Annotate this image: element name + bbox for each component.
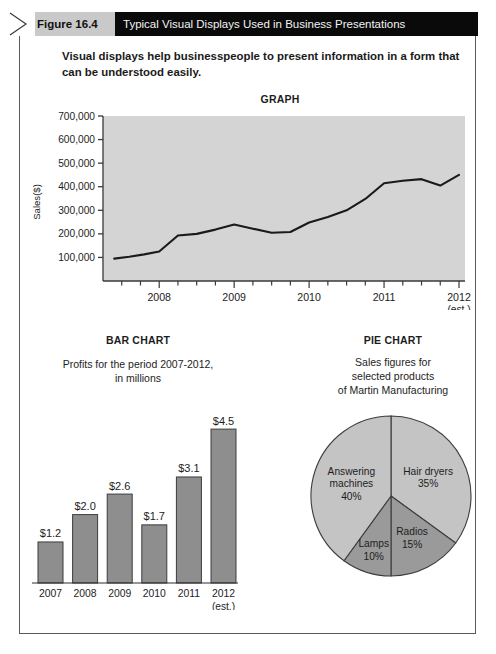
x-tick-label: 2011 <box>373 291 396 303</box>
figure-title: Typical Visual Displays Used in Business… <box>123 12 405 36</box>
line-graph: 100,000200,000300,000400,000500,000600,0… <box>26 110 471 310</box>
bar-category-label: 2012 <box>212 588 235 599</box>
bar-value-label: $2.0 <box>74 500 95 512</box>
graph-title: GRAPH <box>200 93 360 105</box>
figure-header: Figure 16.4 Typical Visual Displays Used… <box>19 12 478 36</box>
pie-chart-svg: Hair dryers35%Radios15%Lamps10%Answering… <box>305 406 481 586</box>
pie-slices <box>311 416 471 576</box>
chevron-right-icon <box>9 12 35 36</box>
bar-category-label: 2009 <box>108 588 131 599</box>
y-tick-label: 400,000 <box>58 181 95 192</box>
figure-number: Figure 16.4 <box>37 12 115 36</box>
bar-category-label: 2010 <box>143 588 166 599</box>
bar-chart-subtitle-line2: in millions <box>32 371 244 385</box>
bar-chart-svg: $1.2$2.0$2.6$1.7$3.1$4.5 200720082009201… <box>24 390 246 610</box>
x-tick-label: 2008 <box>147 291 171 303</box>
bar-value-label: $4.5 <box>213 415 234 427</box>
pie-chart-subtitle-line2: selected products <box>300 369 486 383</box>
bar-value-label: $2.6 <box>109 480 130 492</box>
pie-slice-label: Hair dryers <box>403 466 453 477</box>
y-tick-label: 600,000 <box>58 134 95 145</box>
x-tick-label: 2012 <box>447 291 471 303</box>
bar <box>142 525 167 583</box>
y-axis-ticks: 100,000200,000300,000400,000500,000600,0… <box>58 111 103 263</box>
bar-value-label: $1.2 <box>40 527 61 539</box>
pie-slice-label: 10% <box>364 551 384 562</box>
y-tick-label: 500,000 <box>58 158 95 169</box>
plot-background <box>103 116 465 281</box>
pie-chart: Hair dryers35%Radios15%Lamps10%Answering… <box>305 406 481 586</box>
figure-caption: Visual displays help businesspeople to p… <box>62 48 462 80</box>
bar-value-labels: $1.2$2.0$2.6$1.7$3.1$4.5 <box>40 415 234 540</box>
y-tick-label: 200,000 <box>58 228 95 239</box>
bar-value-label: $3.1 <box>178 462 199 474</box>
bar-category-label: 2008 <box>74 588 97 599</box>
bar <box>73 515 98 583</box>
y-tick-label: 100,000 <box>58 252 95 263</box>
pie-chart-subtitle: Sales figures for selected products of M… <box>300 355 486 397</box>
pie-slice-label: Radios <box>396 526 428 537</box>
line-graph-svg: 100,000200,000300,000400,000500,000600,0… <box>26 110 471 310</box>
bar-series <box>38 429 236 583</box>
y-tick-label: 300,000 <box>58 205 95 216</box>
y-axis-label: Sales($) <box>31 184 42 220</box>
pie-chart-title: PIE CHART <box>318 334 468 346</box>
x-tick-label: 2010 <box>297 291 321 303</box>
bar-category-label: 2011 <box>178 588 201 599</box>
bar-category-label: 2007 <box>39 588 62 599</box>
x-tick-sublabel: (est.) <box>447 304 470 310</box>
bar-chart-title: BAR CHART <box>58 334 218 346</box>
bar-chart-subtitle-line1: Profits for the period 2007-2012, <box>32 357 244 371</box>
pie-chart-subtitle-line3: of Martin Manufacturing <box>300 383 486 397</box>
pie-slice-label: machines <box>330 478 374 489</box>
x-axis-tick-labels: 20082009201020112012(est.) <box>147 291 470 310</box>
pie-chart-subtitle-line1: Sales figures for <box>300 355 486 369</box>
pie-slice-label: 40% <box>341 491 361 502</box>
bar-category-labels: 200720082009201020112012 <box>39 588 235 599</box>
x-tick-label: 2009 <box>222 291 246 303</box>
bar-chart-subtitle: Profits for the period 2007-2012, in mil… <box>32 357 244 385</box>
y-tick-label: 700,000 <box>58 111 95 122</box>
x-axis-ticks <box>122 281 459 288</box>
pie-slice-label: Lamps <box>358 538 389 549</box>
bar <box>176 477 201 583</box>
bar <box>38 542 63 583</box>
pie-slice-label: Answering <box>328 466 376 477</box>
bar <box>107 494 132 583</box>
pie-slice-label: 35% <box>418 478 438 489</box>
bar-value-label: $1.7 <box>144 510 165 522</box>
bar <box>211 429 236 583</box>
bar-category-sublabel: (est.) <box>212 601 235 610</box>
bar-chart: $1.2$2.0$2.6$1.7$3.1$4.5 200720082009201… <box>24 390 246 610</box>
pie-slice-label: 15% <box>402 539 422 550</box>
